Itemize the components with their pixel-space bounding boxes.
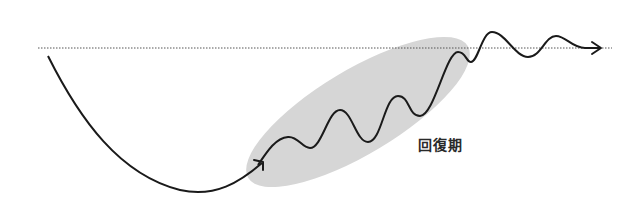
recovery-phase-label: 回復期 (418, 134, 463, 154)
recovery-diagram: 回復期 (0, 0, 638, 201)
decline-curve (48, 56, 262, 192)
recovery-phase-highlight (227, 10, 490, 201)
